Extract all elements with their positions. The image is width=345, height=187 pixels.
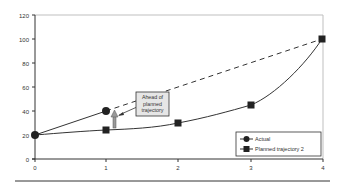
annotation-text-line2: planned: [143, 101, 162, 107]
square-marker-icon: [244, 146, 250, 152]
legend-label-planned: Planned trajectory 2: [255, 146, 304, 152]
y-tick-label: 100: [19, 37, 30, 43]
planned-markers: [103, 36, 326, 134]
legend: Actual Planned trajectory 2: [236, 132, 321, 156]
trajectory-chart: 120 100 80 60 40 20 0 0 1 2 3 4: [0, 0, 345, 187]
annotation-text-line1: Ahead of: [142, 94, 164, 100]
circle-marker-icon: [244, 136, 250, 142]
y-tick-label: 20: [22, 133, 29, 139]
legend-label-actual: Actual: [255, 136, 270, 142]
annotation-callout: Ahead of planned trajectory: [136, 92, 169, 116]
x-tick-label: 2: [176, 165, 180, 171]
legend-item-actual: Actual: [240, 136, 270, 142]
x-tick-label: 4: [321, 165, 325, 171]
x-tick-label: 0: [33, 165, 37, 171]
gap-arrow-icon: [111, 110, 118, 128]
x-tick-label: 1: [104, 165, 108, 171]
callout-pointer: [118, 107, 137, 116]
y-tick-label: 0: [26, 157, 30, 163]
x-axis: 0 1 2 3 4: [32, 159, 325, 171]
annotation-text-line3: trajectory: [142, 107, 164, 113]
x-tick-label: 3: [249, 165, 253, 171]
y-tick-label: 120: [19, 13, 30, 19]
y-tick-label: 60: [22, 85, 29, 91]
y-tick-label: 40: [22, 109, 29, 115]
y-axis: 120 100 80 60 40 20 0: [19, 13, 35, 163]
y-tick-label: 80: [22, 61, 29, 67]
actual-line: [35, 111, 106, 135]
